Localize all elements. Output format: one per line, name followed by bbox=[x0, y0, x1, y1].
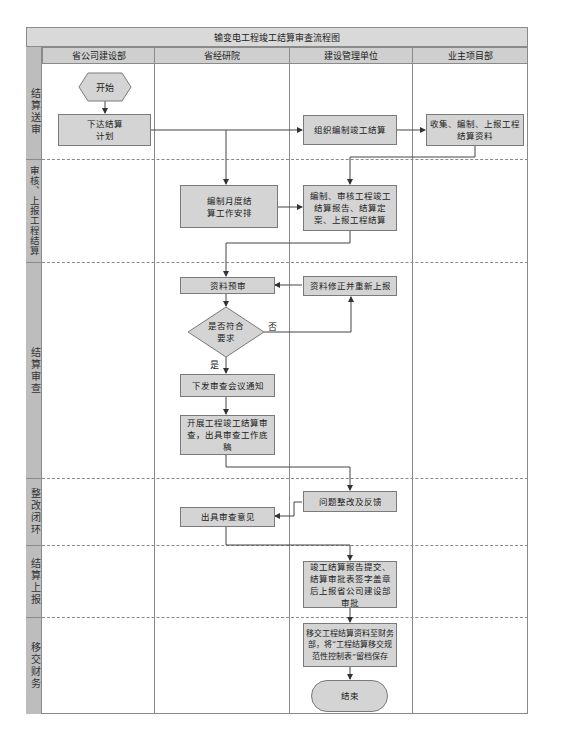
monthly-arrangement-node[interactable]: 编制月度结算工作安排 bbox=[180, 185, 278, 228]
organize-settlement-node[interactable]: 组织编制竣工结算 bbox=[303, 115, 397, 145]
connector-lines bbox=[0, 0, 561, 740]
transfer-finance-node[interactable]: 移交工程结算资料至财务部，将“工程结算移交规范性控制表”留档保存 bbox=[303, 623, 397, 667]
meeting-notice-node[interactable]: 下发审查会议通知 bbox=[180, 374, 275, 397]
issue-plan-node[interactable]: 下达结算计划 bbox=[58, 114, 151, 146]
issue-opinion-node[interactable]: 出具审查意见 bbox=[180, 507, 275, 527]
decision-node[interactable]: 是否符合要求 bbox=[196, 318, 256, 346]
collect-materials-node[interactable]: 收集、编制、上报工程结算资料 bbox=[426, 114, 524, 146]
submit-report-node[interactable]: 竣工结算报告提交、结算审批表签字盖章后上报省公司建设部审批 bbox=[303, 561, 397, 608]
pre-review-node[interactable]: 资料预审 bbox=[180, 277, 275, 294]
decision-no-label: 否 bbox=[268, 320, 277, 333]
conduct-review-node[interactable]: 开展工程竣工结算审查，出具审查工作底稿 bbox=[180, 415, 275, 455]
compile-report-node[interactable]: 编制、审核工程竣工结算报告、结算定案、上报工程结算 bbox=[303, 185, 397, 231]
revise-resubmit-node[interactable]: 资料修正并重新上报 bbox=[303, 276, 397, 296]
end-node[interactable]: 结束 bbox=[311, 680, 388, 712]
start-node[interactable]: 开始 bbox=[79, 73, 131, 101]
decision-yes-label: 是 bbox=[210, 358, 219, 371]
rectify-feedback-node[interactable]: 问题整改及反馈 bbox=[303, 491, 397, 512]
